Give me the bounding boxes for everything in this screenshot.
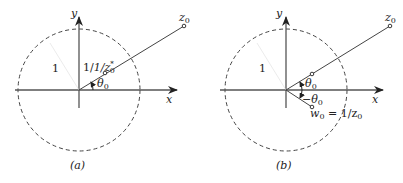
radius-label: 1 [52,62,59,75]
x-axis-label: x [372,93,379,106]
y-axis-label: y [275,7,283,20]
panel-a: y x 1 z0 1/1/z*0 θ0 (a) [15,7,190,172]
panel-b: y x 1 z0 θ0 −θ0 w0 = 1/z0 (b) [220,7,396,172]
inner-z: 1/z [94,61,111,74]
caption-a: (a) [70,159,85,172]
ray-to-z0 [79,26,184,90]
z0-label: z0 [178,11,190,25]
radius-label: 1 [259,62,266,75]
y-axis-label: y [70,7,78,20]
angle-arc [91,82,93,90]
figure: y x 1 z0 1/1/z*0 θ0 (a) y x 1 z0 θ0 −θ0 … [0,0,403,183]
x-axis-label: x [166,93,173,106]
point-inner [310,72,314,76]
caption-b: (b) [276,159,292,172]
w0-equation-label: w0 = 1/z0 [310,107,362,121]
theta0-label: θ0 [97,77,109,91]
angle-arc-upper [300,82,302,90]
ray-to-z0 [286,26,390,90]
inverse-conjugate-label: 1/1/z*0 [83,60,115,75]
theta0-label: θ0 [305,77,317,91]
z0-label: z0 [384,11,396,25]
neg-theta0-label: −θ0 [302,93,323,107]
